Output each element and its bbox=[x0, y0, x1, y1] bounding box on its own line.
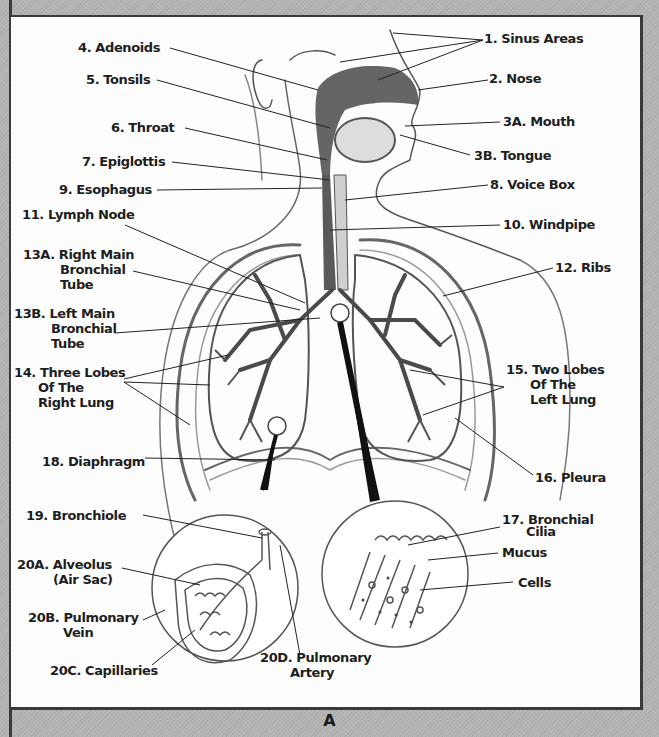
label-line: 14. Three Lobes bbox=[14, 365, 125, 380]
label-line: 20D. Pulmonary bbox=[260, 650, 371, 665]
label-bronchial-cilia: 17. Bronchial Cilia bbox=[502, 512, 594, 539]
label-right-main-bronchial-tube: 13A. Right Main Bronchial Tube bbox=[23, 247, 134, 292]
label-pulmonary-artery: 20D. Pulmonary Artery bbox=[260, 650, 371, 680]
label-tongue: 3B. Tongue bbox=[474, 148, 551, 163]
label-lymph-node: 11. Lymph Node bbox=[22, 207, 134, 222]
figure-caption: A bbox=[0, 711, 659, 730]
label-cells: Cells bbox=[518, 575, 551, 590]
label-line: Artery bbox=[260, 665, 371, 680]
label-sinus-areas: 1. Sinus Areas bbox=[484, 31, 583, 46]
label-mucus: Mucus bbox=[502, 545, 547, 560]
label-right-lung-lobes: 14. Three Lobes Of The Right Lung bbox=[14, 365, 125, 410]
label-diaphragm: 18. Diaphragm bbox=[42, 454, 145, 469]
label-throat: 6. Throat bbox=[111, 120, 174, 135]
label-line: Left Lung bbox=[506, 392, 604, 407]
label-line: Bronchial bbox=[23, 262, 134, 277]
label-esophagus: 9. Esophagus bbox=[59, 182, 152, 197]
label-voice-box: 8. Voice Box bbox=[490, 177, 575, 192]
label-line: 20B. Pulmonary bbox=[28, 610, 139, 625]
label-line: Right Lung bbox=[14, 395, 125, 410]
label-line: Vein bbox=[28, 625, 139, 640]
label-left-main-bronchial-tube: 13B. Left Main Bronchial Tube bbox=[14, 306, 117, 351]
label-mouth: 3A. Mouth bbox=[503, 114, 575, 129]
label-left-lung-lobes: 15. Two Lobes Of The Left Lung bbox=[506, 362, 604, 407]
label-epiglottis: 7. Epiglottis bbox=[82, 154, 165, 169]
label-pleura: 16. Pleura bbox=[535, 470, 606, 485]
label-line: 20A. Alveolus bbox=[17, 557, 113, 572]
label-ribs: 12. Ribs bbox=[555, 260, 611, 275]
label-line: 15. Two Lobes bbox=[506, 362, 604, 377]
label-capillaries: 20C. Capillaries bbox=[50, 663, 158, 678]
label-adenoids: 4. Adenoids bbox=[78, 40, 160, 55]
label-windpipe: 10. Windpipe bbox=[503, 217, 595, 232]
label-line: (Air Sac) bbox=[17, 572, 113, 587]
label-line: Bronchial bbox=[14, 321, 117, 336]
label-tonsils: 5. Tonsils bbox=[86, 72, 150, 87]
label-line: Of The bbox=[14, 380, 125, 395]
label-pulmonary-vein: 20B. Pulmonary Vein bbox=[28, 610, 139, 640]
label-line: Tube bbox=[23, 277, 134, 292]
label-line: 13B. Left Main bbox=[14, 306, 117, 321]
label-line: Of The bbox=[506, 377, 604, 392]
label-bronchiole: 19. Bronchiole bbox=[26, 508, 126, 523]
label-line: 13A. Right Main bbox=[23, 247, 134, 262]
label-alveolus: 20A. Alveolus (Air Sac) bbox=[17, 557, 113, 587]
label-nose: 2. Nose bbox=[489, 71, 541, 86]
label-line: Tube bbox=[14, 336, 117, 351]
